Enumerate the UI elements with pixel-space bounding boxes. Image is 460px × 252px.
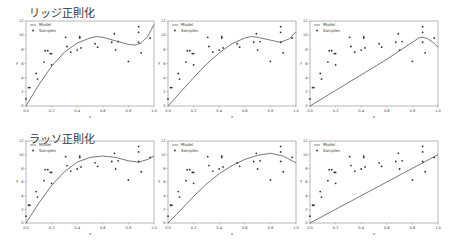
sample-point [327, 61, 329, 63]
sample-point [138, 31, 140, 33]
sample-point [51, 182, 53, 184]
x-tick-label: 0.4 [358, 226, 364, 230]
sample-point [25, 98, 27, 100]
sample-point [282, 171, 284, 173]
sample-point [29, 204, 31, 206]
sample-point [309, 98, 311, 100]
subplot-0-2: 0.00.20.40.60.81.0024681012xyModelSample… [300, 19, 442, 119]
sample-point [117, 41, 119, 43]
sample-point [364, 166, 366, 168]
sample-point [282, 52, 284, 54]
sample-point [255, 33, 257, 35]
sample-point [218, 49, 220, 51]
sample-point [381, 46, 383, 48]
sample-point [422, 26, 424, 28]
sample-point [253, 41, 255, 43]
y-tick-label: 10 [19, 153, 24, 157]
y-tick-label: 10 [161, 153, 166, 157]
y-tick-label: 6 [21, 180, 24, 184]
sample-point [327, 180, 329, 182]
y-tick-label: 4 [21, 194, 24, 198]
sample-point [259, 160, 261, 162]
x-tick-label: 0.6 [100, 109, 106, 113]
y-tick-label: 8 [163, 48, 166, 52]
model-curve [310, 155, 438, 223]
sample-point [239, 165, 241, 167]
sample-point [138, 161, 140, 163]
sample-point [127, 60, 129, 62]
sample-point [350, 46, 352, 48]
sample-point [208, 46, 210, 48]
sample-point [422, 31, 424, 33]
legend-marker-icon [316, 30, 318, 32]
sample-point [280, 31, 282, 33]
y-tick-label: 8 [163, 167, 166, 171]
svg-text:Samples: Samples [39, 148, 56, 153]
svg-text:Model: Model [323, 22, 335, 27]
sample-point [360, 168, 362, 170]
sample-point [208, 165, 210, 167]
x-tick-label: 0.0 [165, 109, 171, 113]
x-axis-label: x [89, 232, 92, 236]
x-tick-label: 0.8 [268, 109, 274, 113]
sample-point [97, 46, 99, 48]
axes-frame [168, 141, 296, 223]
sample-point [422, 161, 424, 163]
sample-point [113, 33, 115, 35]
sample-point [207, 156, 209, 158]
sample-point [360, 49, 362, 51]
svg-text:Samples: Samples [39, 28, 56, 33]
sample-point [331, 169, 333, 171]
sample-point [328, 169, 330, 171]
legend-marker-icon [32, 150, 34, 152]
sample-point [127, 179, 129, 181]
sample-point [44, 169, 46, 171]
y-tick-label: 4 [163, 76, 166, 80]
sample-point [222, 166, 224, 168]
sample-point [179, 78, 181, 80]
x-axis-label: x [231, 115, 234, 119]
legend: ModelSamples [172, 22, 198, 33]
x-tick-label: 0.4 [74, 226, 80, 230]
subplot-1-2: 0.00.20.40.60.81.0024681012xyModelSample… [300, 139, 442, 236]
model-curve [26, 25, 154, 106]
sample-point [113, 152, 115, 154]
svg-text:Model: Model [181, 22, 193, 27]
legend: ModelSamples [172, 142, 198, 153]
x-tick-label: 0.8 [410, 226, 416, 230]
sample-point [149, 37, 151, 39]
sample-point [321, 78, 323, 80]
y-tick-label: 12 [161, 139, 166, 143]
sample-point [319, 73, 321, 75]
sample-point [335, 64, 337, 66]
sample-point [117, 160, 119, 162]
x-tick-label: 0.8 [126, 109, 132, 113]
sample-point [349, 156, 351, 158]
y-tick-label: 12 [303, 19, 308, 23]
x-tick-label: 0.2 [49, 109, 55, 113]
sample-point [167, 98, 169, 100]
sample-point [253, 161, 255, 163]
sample-point [193, 53, 195, 55]
sample-point [140, 52, 142, 54]
subplot-1-1: 0.00.20.40.60.81.0024681012xyModelSample… [158, 139, 300, 236]
y-tick-label: 4 [305, 76, 308, 80]
sample-point [66, 165, 68, 167]
y-tick-label: 6 [163, 180, 166, 184]
y-axis-label: y [16, 179, 19, 183]
sample-point [335, 172, 337, 174]
sample-point [80, 166, 82, 168]
subplot-1-0: 0.00.20.40.60.81.0024681012xyModelSample… [16, 139, 158, 236]
y-tick-label: 2 [305, 208, 307, 212]
sample-point [412, 179, 414, 181]
x-tick-label: 0.2 [333, 109, 339, 113]
sample-point [79, 37, 81, 39]
sample-point [43, 180, 45, 182]
sample-point [115, 168, 117, 170]
x-tick-label: 1.0 [293, 109, 299, 113]
sample-point [35, 73, 37, 75]
x-tick-label: 1.0 [151, 226, 157, 230]
x-tick-label: 0.6 [242, 109, 248, 113]
sample-point [193, 172, 195, 174]
y-tick-label: 10 [303, 33, 308, 37]
